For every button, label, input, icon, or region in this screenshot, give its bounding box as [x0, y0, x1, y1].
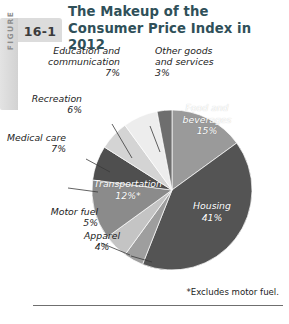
slice-label-medical-care: Medical care 7%: [0, 132, 66, 154]
footnote: *Excludes motor fuel.: [186, 287, 279, 297]
pie-chart: Food and beverages 15% Housing 41% Trans…: [0, 40, 289, 290]
bottom-rule: [33, 305, 283, 306]
figure-container: FIGURE 16-1 The Makeup of the Consumer P…: [0, 0, 289, 324]
slice-label-motor-fuel: Motor fuel 5%: [10, 206, 98, 228]
slice-label-other-goods-and-services: Other goods and services 3%: [155, 45, 250, 78]
slice-label-transportation: Transportation 12%*: [80, 178, 176, 201]
slice-label-education-and-communication: Education and communication 7%: [30, 45, 120, 78]
slice-label-housing: Housing 41%: [175, 200, 249, 223]
slice-label-apparel: Apparel 4%: [73, 230, 131, 252]
figure-title-line1: The Makeup of the: [68, 4, 208, 19]
figure-number: 16-1: [18, 20, 62, 42]
slice-label-food-and-beverages: Food and beverages 15%: [168, 102, 246, 137]
slice-label-recreation: Recreation 6%: [8, 93, 82, 115]
